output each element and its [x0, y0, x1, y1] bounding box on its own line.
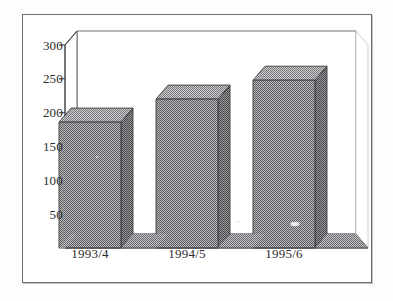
chart-outer-frame: 300 250 200 150 100 50 1993/4 1994/5 199…: [22, 14, 372, 283]
y-axis-label-50: 50: [29, 208, 63, 221]
y-axis-label-100: 100: [29, 174, 63, 187]
y-axis-label-200: 200: [29, 106, 63, 119]
x-axis-label-1994-5: 1994/5: [147, 246, 227, 262]
bar-side-face: [315, 66, 327, 248]
x-axis-label-1995-6: 1995/6: [244, 246, 324, 262]
bar-top-face: [253, 66, 327, 80]
bar-1995-6[interactable]: [253, 66, 327, 248]
bar-1994-5[interactable]: [156, 85, 230, 248]
chart-page: 300 250 200 150 100 50 1993/4 1994/5 199…: [0, 0, 393, 301]
y-axis-label-300: 300: [29, 39, 63, 52]
bar-chart-3d: [23, 15, 373, 284]
bar-1993-4[interactable]: [59, 108, 133, 248]
bar-front-face: [253, 80, 315, 248]
bar-front-face: [156, 99, 218, 248]
bar-top-face: [59, 108, 133, 122]
y-axis-label-150: 150: [29, 140, 63, 153]
x-axis-category-labels: 1993/4 1994/5 1995/6: [23, 246, 373, 276]
bar-top-face: [156, 85, 230, 99]
bar-side-face: [121, 108, 133, 248]
y-axis-tick-labels: 300 250 200 150 100 50: [25, 15, 63, 284]
plot-right-edge: [356, 31, 368, 248]
bar-front-face: [59, 122, 121, 248]
bar-side-face: [218, 85, 230, 248]
y-axis-label-250: 250: [29, 72, 63, 85]
x-axis-label-1993-4: 1993/4: [50, 246, 130, 262]
